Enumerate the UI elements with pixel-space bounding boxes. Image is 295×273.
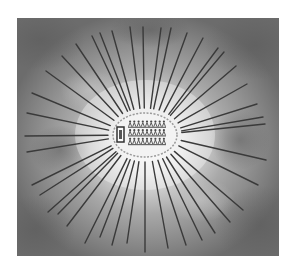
ray-line [25,135,108,136]
central-oval [113,113,177,157]
starburst-artwork [0,0,295,273]
